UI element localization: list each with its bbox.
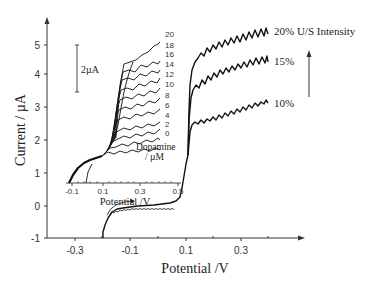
conc-label: 2 xyxy=(165,120,170,129)
conc-label: 18 xyxy=(165,41,174,50)
x-tick: -0.3 xyxy=(66,245,84,256)
inset-x-axis-label: Potential /V xyxy=(100,196,151,207)
inset-concentration-labels: 20 18 16 14 12 10 8 6 4 2 0 xyxy=(165,30,174,138)
intensity-arrow xyxy=(307,50,312,97)
y-tick-labels: -1 0 1 2 3 4 5 xyxy=(31,40,40,244)
series-20pct xyxy=(188,28,268,155)
x-tick-labels: -0.3 -0.1 0.1 0.3 xyxy=(66,245,248,256)
x-axis-label: Potential /V xyxy=(161,261,228,276)
x-tick: -0.1 xyxy=(121,245,139,256)
conc-label: 4 xyxy=(165,111,170,120)
label-20pct: 20% U/S Intensity xyxy=(274,25,356,37)
y-tick: 4 xyxy=(34,69,40,80)
conc-label: 20 xyxy=(165,30,174,39)
inset-x-tick: 0.5 xyxy=(172,187,184,196)
inset-trace-20 xyxy=(116,42,160,138)
inset-x-tick: 0.3 xyxy=(134,187,146,196)
conc-label: 0 xyxy=(165,129,170,138)
conc-label: 14 xyxy=(165,60,174,69)
y-tick: 5 xyxy=(34,40,40,51)
conc-label: 10 xyxy=(165,80,174,89)
y-tick: 1 xyxy=(34,168,40,179)
conc-label: 16 xyxy=(165,50,174,59)
x-tick: 0.3 xyxy=(234,245,248,256)
inset-x-tick-labels: -0.1 0.1 0.3 0.5 xyxy=(65,187,184,196)
inset-x-tick: -0.1 xyxy=(65,187,79,196)
inset-trace-18 xyxy=(115,61,160,139)
y-tick: 3 xyxy=(34,102,40,113)
conc-label: 6 xyxy=(165,101,170,110)
y-tick: -1 xyxy=(31,233,40,244)
main-axes xyxy=(44,17,305,241)
scale-bar xyxy=(75,45,79,92)
label-10pct: 10% xyxy=(274,97,294,109)
scale-bar-label: 2µA xyxy=(81,64,100,75)
inset-axes xyxy=(66,182,181,187)
dopamine-unit-label: / µM xyxy=(145,152,164,162)
inset-x-tick: 0.1 xyxy=(97,187,109,196)
y-axis-label: Current / µA xyxy=(13,93,28,166)
y-tick: 2 xyxy=(34,135,40,146)
conc-label: 12 xyxy=(165,70,174,79)
series-15pct xyxy=(188,56,268,155)
conc-label: 8 xyxy=(165,91,170,100)
series-10pct xyxy=(188,100,268,155)
dopamine-label: Dopamine xyxy=(136,142,176,152)
y-tick: 0 xyxy=(34,201,40,212)
series-foot-wiggle xyxy=(110,209,174,215)
chart-canvas: -1 0 1 2 3 4 5 -0.3 -0.1 0.1 0.3 Potenti… xyxy=(0,0,365,286)
label-15pct: 15% xyxy=(274,55,294,67)
x-tick: 0.1 xyxy=(179,245,193,256)
